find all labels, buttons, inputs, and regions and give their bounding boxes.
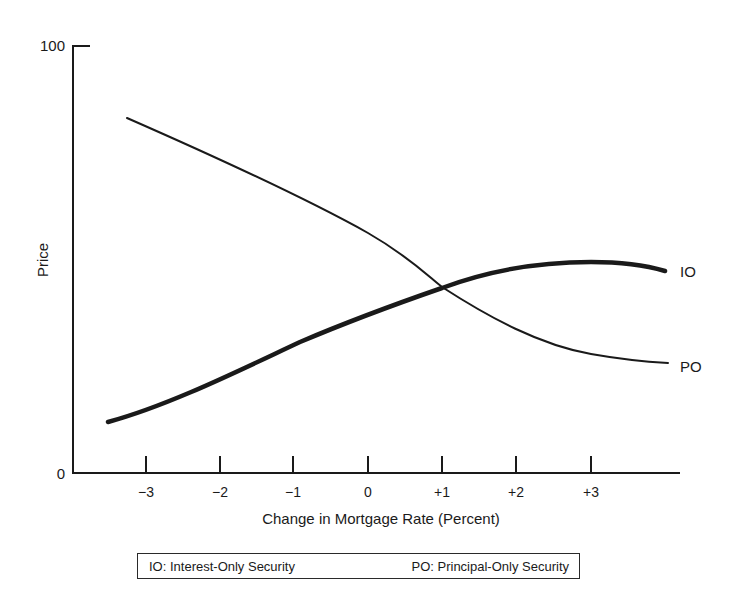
po-curve	[127, 118, 668, 363]
legend-item-po: PO: Principal-Only Security	[412, 559, 570, 574]
x-tick-label: −2	[212, 484, 228, 500]
price-chart: −3 −2 −1 0 +1 +2 +3 100 0 Price Change i…	[0, 0, 737, 607]
y-tick-label-bottom: 0	[57, 465, 65, 482]
legend: IO: Interest-Only Security PO: Principal…	[137, 553, 580, 579]
io-curve	[108, 262, 665, 422]
po-series-label: PO	[680, 358, 702, 375]
x-tick-label: 0	[364, 484, 372, 500]
io-series-label: IO	[680, 263, 696, 280]
legend-item-io: IO: Interest-Only Security	[149, 559, 295, 574]
x-tick-label: +2	[508, 484, 524, 500]
x-axis-ticks	[146, 456, 591, 473]
x-tick-label: −3	[138, 484, 154, 500]
y-axis-title: Price	[34, 243, 51, 277]
x-tick-label: +1	[434, 484, 450, 500]
x-tick-label: +3	[583, 484, 599, 500]
x-tick-label: −1	[285, 484, 301, 500]
y-tick-label-top: 100	[40, 37, 65, 54]
x-axis-title: Change in Mortgage Rate (Percent)	[262, 510, 500, 527]
